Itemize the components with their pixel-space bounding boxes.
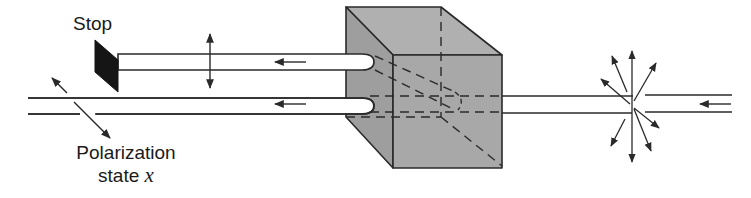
stop-label: Stop bbox=[73, 13, 112, 35]
polarization-label-line1: Polarization bbox=[61, 142, 191, 164]
unpolarized-starburst-icon bbox=[601, 51, 659, 162]
polarization-label-prefix: state bbox=[98, 165, 144, 186]
input-beam bbox=[502, 95, 732, 113]
stop-absorber bbox=[95, 40, 118, 92]
polarization-variable: x bbox=[145, 163, 154, 187]
upper-beam bbox=[118, 54, 374, 70]
polarization-label: Polarization state x bbox=[61, 142, 191, 187]
lower-beam bbox=[28, 98, 374, 114]
polarization-label-line2: state x bbox=[61, 164, 191, 187]
beam-splitter-cube bbox=[346, 7, 502, 168]
